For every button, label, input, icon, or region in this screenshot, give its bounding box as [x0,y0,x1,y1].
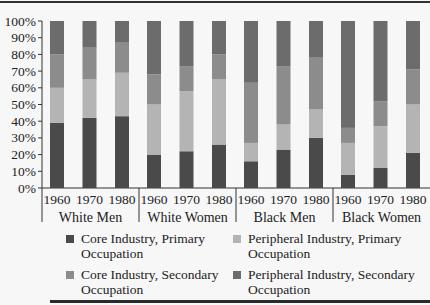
legend-label: Peripheral Industry, Secondary [233,267,415,282]
legend-label-line2: Occupation [66,246,205,261]
legend-item-peripheral-primary: Peripheral Industry, Primary Occupation [233,231,401,261]
x-tick-label: 1970 [76,192,103,207]
bar-segment [374,21,388,101]
y-tick-label: 0% [18,181,36,196]
bar-segment [244,161,258,188]
legend-swatch [233,271,241,279]
bar-segment [374,126,388,168]
bar-segment [406,105,420,153]
bar-segment [309,58,323,110]
bar-segment [212,79,226,144]
bar-segment [341,175,355,188]
bar-segment [374,101,388,126]
legend-label: Core Industry, Primary [66,231,205,246]
legend-item-core-primary: Core Industry, Primary Occupation [66,231,205,261]
x-tick-label: 1980 [400,192,427,207]
y-tick-label: 70% [11,64,36,79]
bar-segment [244,21,258,83]
bar-segment [309,138,323,188]
bar-segment [50,123,64,188]
x-tick-label: 1960 [238,192,265,207]
x-tick-label: 1960 [335,192,362,207]
bar-segment [50,21,64,54]
x-tick-label: 1960 [44,192,71,207]
bar-segment [277,150,291,188]
bar-segment [309,110,323,138]
bar-segment [180,21,194,66]
bottom-rule [50,300,430,303]
legend-item-core-secondary: Core Industry, Secondary Occupation [66,267,218,297]
bar-segment [406,69,420,104]
legend-label-line2: Occupation [233,246,401,261]
x-tick-label: 1960 [141,192,168,207]
legend-label-line2: Occupation [66,282,218,297]
y-tick-label: 50% [11,97,36,112]
bar-segment [83,118,97,188]
legend-item-peripheral-secondary: Peripheral Industry, Secondary Occupatio… [233,267,415,297]
y-tick-label: 80% [11,47,36,62]
legend-label: Peripheral Industry, Primary [233,231,401,246]
bar-segment [309,21,323,58]
y-tick-label: 100% [5,14,37,29]
x-tick-label: 1980 [303,192,330,207]
legend-label: Core Industry, Secondary [66,267,218,282]
bar-segment [406,21,420,69]
legend-swatch [66,271,74,279]
bar-segment [147,21,161,74]
bar-segment [212,145,226,188]
bar-segment [83,48,97,80]
bar-segment [244,83,258,143]
bar-segment [277,125,291,150]
bar-segment [83,21,97,48]
bar-segment [341,21,355,128]
bar-segment [341,143,355,175]
bar-segment [244,143,258,161]
bar-segment [180,151,194,188]
x-tick-label: 1970 [173,192,200,207]
stacked-bar-chart: 0%10%20%30%40%50%60%70%80%90%100%1960197… [0,0,430,230]
bar-segment [374,168,388,188]
group-label: White Women [147,210,228,225]
legend-label-line2: Occupation [233,282,415,297]
bar-segment [50,54,64,87]
bar-segment [115,43,129,73]
bar-segment [147,155,161,188]
group-label: Black Women [342,210,421,225]
bar-segment [341,128,355,143]
bar-segment [212,21,226,54]
bar-segment [115,21,129,43]
y-tick-label: 60% [11,80,36,95]
bar-segment [115,73,129,116]
bar-segment [147,105,161,155]
x-tick-label: 1970 [270,192,297,207]
x-tick-label: 1980 [206,192,233,207]
bar-segment [115,116,129,188]
bar-segment [277,21,291,66]
legend-swatch [233,235,241,243]
bar-segment [180,91,194,151]
bar-segment [406,153,420,188]
bar-segment [212,54,226,79]
bar-segment [147,74,161,104]
y-tick-label: 40% [11,114,36,129]
x-tick-label: 1980 [109,192,136,207]
group-label: Black Men [254,210,316,225]
y-tick-label: 30% [11,130,36,145]
bar-segment [180,66,194,91]
bar-segment [83,79,97,117]
group-label: White Men [59,210,122,225]
bar-segment [50,88,64,123]
x-tick-label: 1970 [367,192,394,207]
bar-segment [277,66,291,124]
y-tick-label: 10% [11,164,36,179]
y-tick-label: 90% [11,30,36,45]
y-tick-label: 20% [11,147,36,162]
legend-swatch [66,235,74,243]
